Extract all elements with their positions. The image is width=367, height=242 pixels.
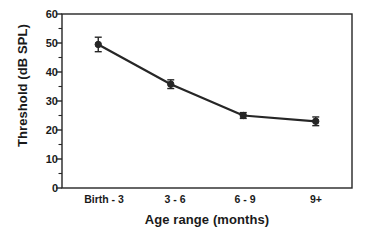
plot-canvas: [0, 0, 367, 242]
data-point-2: [240, 112, 246, 118]
series-line: [98, 44, 316, 121]
data-point-3: [313, 118, 319, 124]
data-point-0: [95, 41, 101, 47]
data-series-threshold: [95, 37, 320, 125]
y-axis-ticks: [56, 14, 62, 188]
data-point-1: [168, 81, 174, 87]
chart-figure: Threshold (dB SPL) Age range (months) 60…: [0, 0, 367, 242]
